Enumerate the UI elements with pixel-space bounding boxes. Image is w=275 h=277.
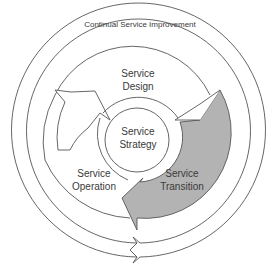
operation-left-arc: [43, 95, 55, 160]
operation-label-line2: Operation: [72, 181, 116, 192]
operation-label-line1: Service: [77, 168, 111, 179]
design-arrowhead-icon: [55, 90, 110, 150]
transition-label-line2: Transition: [160, 181, 204, 192]
strategy-label-line1: Service: [121, 126, 155, 137]
itil-lifecycle-diagram: Continual Service Improvement Service De…: [0, 0, 275, 277]
transition-label-line1: Service: [165, 168, 199, 179]
strategy-label-line2: Strategy: [119, 139, 156, 150]
design-label-line2: Design: [122, 81, 153, 92]
csi-label: Continual Service Improvement: [84, 20, 196, 29]
csi-arrowhead-icon: [130, 237, 140, 263]
design-label-line1: Service: [121, 68, 155, 79]
design-arrow: [55, 90, 110, 150]
